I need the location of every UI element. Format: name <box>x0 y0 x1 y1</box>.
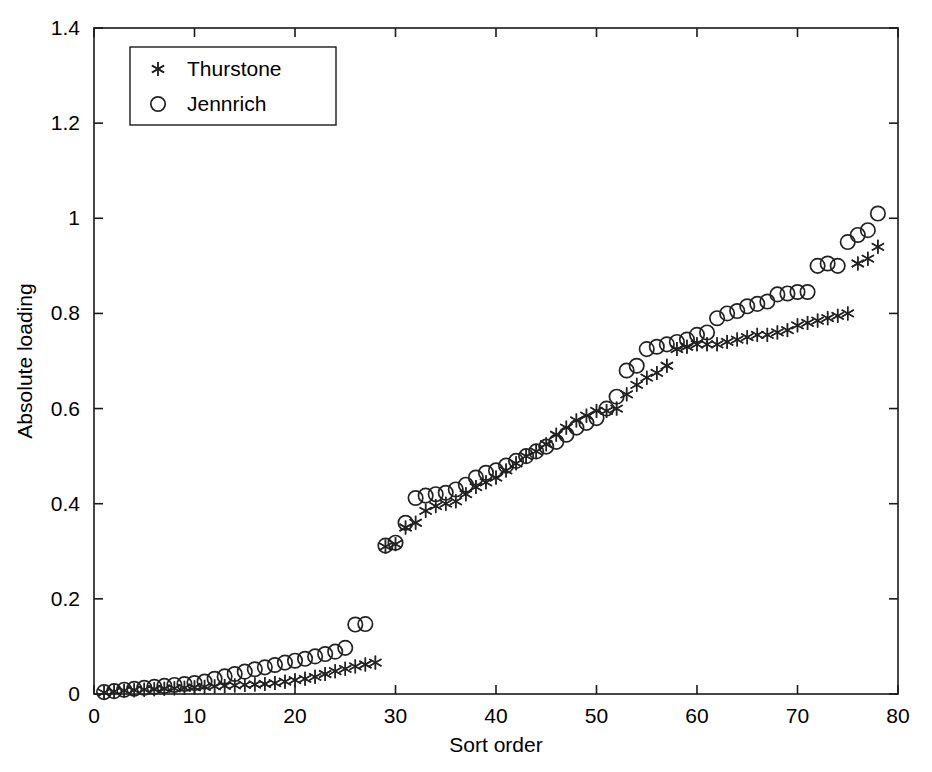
x-tick-label: 10 <box>183 704 206 727</box>
y-tick-label: 0.6 <box>51 397 80 420</box>
y-tick-label: 1.4 <box>51 16 81 39</box>
y-tick-label: 0 <box>68 682 80 705</box>
x-axis-title: Sort order <box>449 733 542 756</box>
scatter-plot: 01020304050607080 00.20.40.60.811.21.4 S… <box>0 0 932 772</box>
x-tick-label: 80 <box>886 704 909 727</box>
y-tick-label: 0.8 <box>51 301 80 324</box>
x-tick-label: 40 <box>484 704 507 727</box>
legend-label-thurstone: Thurstone <box>187 57 282 80</box>
x-tick-label: 30 <box>384 704 407 727</box>
y-axis-title: Absolute loading <box>13 283 36 438</box>
x-tick-label: 50 <box>585 704 608 727</box>
x-tick-label: 70 <box>786 704 809 727</box>
y-tick-label: 1 <box>68 206 80 229</box>
figure-container: 01020304050607080 00.20.40.60.811.21.4 S… <box>0 0 932 772</box>
y-tick-label: 0.2 <box>51 587 80 610</box>
x-tick-label: 20 <box>283 704 306 727</box>
y-tick-label: 0.4 <box>51 492 81 515</box>
legend: Thurstone Jennrich <box>130 47 336 125</box>
x-tick-label: 60 <box>685 704 708 727</box>
x-tick-label: 0 <box>88 704 100 727</box>
legend-label-jennrich: Jennrich <box>187 92 266 115</box>
y-tick-label: 1.2 <box>51 111 80 134</box>
